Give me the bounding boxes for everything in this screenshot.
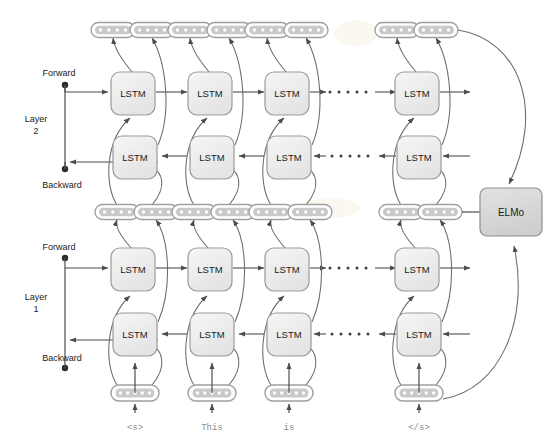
canvas-background [0,0,560,448]
lstm-cell-label: LSTM [122,329,147,340]
lstm-cell: LSTM [397,136,441,179]
lstm-cell-label: LSTM [199,329,224,340]
lstm-cell-label: LSTM [199,152,224,163]
layer1-backward-label: Backward [42,353,82,363]
embedding-pill [288,205,332,220]
embedding-pill [95,205,139,220]
lstm-cell: LSTM [113,136,157,179]
layer2-number-label: 2 [33,126,38,136]
lstm-cell-label: LSTM [406,329,431,340]
lstm-cell: LSTM [111,248,155,291]
embedding-pill [414,23,458,38]
lstm-cell-label: LSTM [122,152,147,163]
token-label-1: This [201,423,223,433]
embedding-pill [91,23,135,38]
lstm-cell-label: LSTM [197,264,222,275]
lstm-cell: LSTM [190,313,234,356]
embedding-pill [418,205,462,220]
token-label-0: <s> [127,423,143,433]
layer1-name-label: Layer [25,292,48,302]
layer1-forward-label: Forward [42,242,75,252]
lstm-cell-label: LSTM [404,264,429,275]
elmo-output-label: ELMo [498,207,525,218]
layer1-number-label: 1 [33,304,38,314]
lstm-cell: LSTM [267,313,311,356]
embedding-pill [168,23,212,38]
elmo-output-box[interactable]: ELMo [480,188,542,236]
lstm-cell: LSTM [111,72,155,115]
elmo-architecture-diagram: Forward Backward Layer 2 [0,0,560,448]
lstm-cell-label: LSTM [274,88,299,99]
embedding-pill [379,205,423,220]
lstm-cell: LSTM [267,136,311,179]
middle-pills-row [95,205,462,220]
lstm-cell-label: LSTM [120,88,145,99]
top-output-pills [91,23,458,38]
lstm-cell-label: LSTM [120,264,145,275]
lstm-cell-label: LSTM [276,329,301,340]
lstm-cell-label: LSTM [406,152,431,163]
lstm-cell: LSTM [188,248,232,291]
token-label-3: </s> [408,423,430,433]
layer2-name-label: Layer [25,114,48,124]
embedding-pill [172,205,216,220]
lstm-cell-label: LSTM [276,152,301,163]
lstm-cell: LSTM [265,72,309,115]
lstm-cell: LSTM [190,136,234,179]
embedding-pill [249,205,293,220]
diagram-canvas: Forward Backward Layer 2 [0,0,560,448]
lstm-cell: LSTM [265,248,309,291]
lstm-cell-label: LSTM [404,88,429,99]
lstm-cell: LSTM [113,313,157,356]
layer2-backward-label: Backward [42,180,82,190]
lstm-cell: LSTM [188,72,232,115]
embedding-pill [245,23,289,38]
token-label-2: is [284,423,295,433]
layer2-forward-label: Forward [42,68,75,78]
lstm-cell: LSTM [395,248,439,291]
embedding-pill [284,23,328,38]
lstm-cell-label: LSTM [274,264,299,275]
embedding-pill [375,23,419,38]
lstm-cell-label: LSTM [197,88,222,99]
lstm-cell: LSTM [397,313,441,356]
lstm-cell: LSTM [395,72,439,115]
